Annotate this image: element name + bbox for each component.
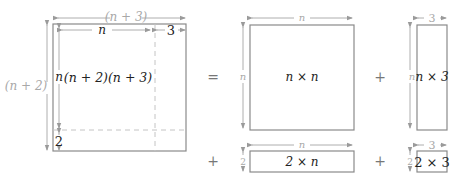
inner-width-n-label: n	[98, 23, 106, 37]
part-n-by-n: n n n × n	[240, 12, 354, 130]
inner-width-3-label: 3	[167, 23, 175, 38]
plus-sign-1: +	[374, 69, 386, 85]
n-by-n-height-label: n	[240, 71, 246, 82]
n-by-n-width-label: n	[299, 12, 305, 23]
plus-sign-2: +	[207, 153, 219, 169]
n-by-3-area-label: n × 3	[415, 70, 448, 84]
part-2-by-n: n 2 2 × n	[240, 139, 354, 172]
main-rectangle	[53, 24, 186, 151]
inner-height-n-label: n	[55, 70, 63, 84]
plus-sign-3: +	[374, 153, 386, 169]
equals-sign: =	[207, 69, 219, 85]
n-by-3-height-label: n	[409, 71, 415, 82]
outer-height-label: (n + 2)	[5, 79, 48, 93]
main-area-label: (n + 2)(n + 3)	[64, 70, 152, 85]
2-by-3-width-label: 3	[429, 139, 436, 152]
main-rectangle-group: (n + 3) n 3 (n + 2) n 2 (n + 2)(n + 3)	[5, 10, 186, 151]
2-by-n-height-label: 2	[240, 157, 246, 167]
area-model-diagram: (n + 3) n 3 (n + 2) n 2 (n + 2)(n + 3) =…	[0, 0, 460, 186]
outer-width-label: (n + 3)	[105, 10, 148, 24]
n-by-3-width-label: 3	[429, 12, 436, 25]
n-by-n-area-label: n × n	[285, 70, 318, 84]
part-2-by-3: 3 2 2 × 3	[407, 139, 450, 172]
part-n-by-3: 3 n n × 3	[409, 12, 449, 130]
inner-height-2-label: 2	[55, 134, 63, 149]
2-by-n-area-label: 2 × n	[284, 155, 318, 169]
2-by-3-height-label: 2	[407, 157, 413, 167]
2-by-3-area-label: 2 × 3	[414, 155, 450, 170]
2-by-n-width-label: n	[299, 139, 305, 150]
